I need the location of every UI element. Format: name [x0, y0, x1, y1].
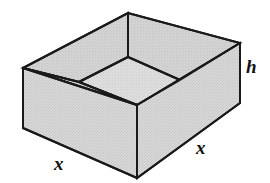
- open-box-figure: x x h: [0, 0, 270, 183]
- dimension-label-x-right: x: [196, 138, 206, 157]
- dimension-label-x-left: x: [54, 154, 64, 173]
- dimension-label-h: h: [246, 57, 257, 76]
- box-drawing: [0, 0, 270, 183]
